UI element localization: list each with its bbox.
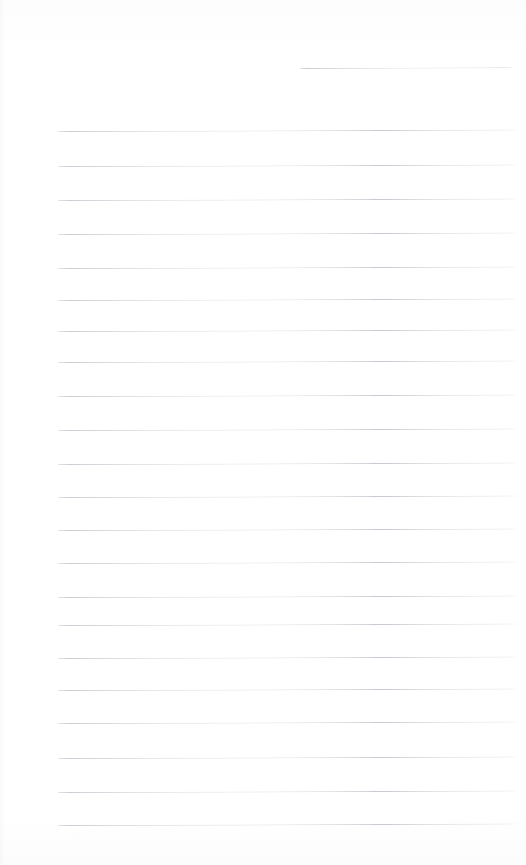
ruled-line [58, 463, 517, 465]
ruled-line [58, 299, 517, 301]
ruled-line [58, 562, 517, 564]
ruled-line [58, 529, 517, 531]
ruled-line [58, 757, 517, 759]
ruled-line [58, 689, 517, 691]
ruled-line [58, 130, 517, 132]
ruled-line [58, 165, 517, 167]
ruled-line [58, 722, 517, 724]
ruled-line [58, 624, 517, 626]
ruled-line [58, 429, 517, 431]
ruled-line [58, 267, 517, 269]
ruled-line [58, 233, 517, 235]
ruled-line [58, 657, 517, 659]
ruled-line [58, 199, 517, 201]
ruled-line [58, 361, 517, 363]
ruled-line [58, 496, 517, 498]
page-left-edge-shadow [0, 0, 6, 865]
ruled-line [58, 330, 517, 332]
scanned-page [0, 0, 526, 865]
ruled-line [58, 791, 517, 793]
ruled-line [58, 395, 517, 397]
ruled-line [58, 824, 517, 826]
ruled-line [58, 596, 517, 598]
ruled-line-partial [300, 67, 512, 69]
